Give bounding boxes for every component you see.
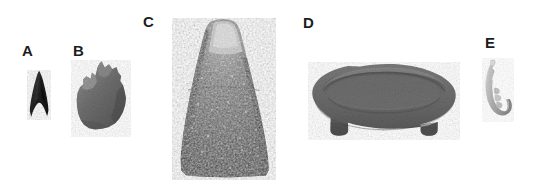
artifact-label-b: B bbox=[73, 43, 84, 58]
artifact-e-bone-fishhook bbox=[480, 58, 514, 130]
artifact-a-projectile-point bbox=[26, 70, 52, 120]
bone-fishhook-icon bbox=[480, 58, 514, 130]
stone-fragment-icon bbox=[71, 60, 133, 138]
artifact-label-c: C bbox=[143, 14, 154, 29]
artifact-label-d: D bbox=[303, 15, 314, 30]
artifact-b-stone-fragment bbox=[71, 60, 133, 138]
artifact-label-a: A bbox=[22, 43, 33, 58]
artifact-c-stone-celt bbox=[172, 18, 276, 180]
projectile-point-icon bbox=[26, 70, 52, 120]
artifact-label-e: E bbox=[485, 35, 495, 50]
stone-celt-icon bbox=[172, 18, 276, 180]
stone-bowl-icon bbox=[308, 62, 460, 140]
artifact-d-stone-bowl bbox=[308, 62, 460, 140]
figure-plate: A B C D E bbox=[0, 0, 536, 189]
